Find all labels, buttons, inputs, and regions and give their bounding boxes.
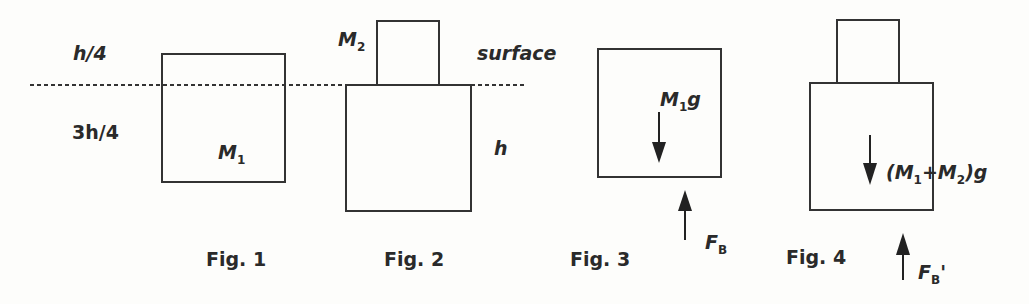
fig2-height-label: h [494, 139, 508, 158]
fig1-mass-label: M1 [218, 143, 245, 162]
fig3-weight-label: M1g [660, 90, 701, 109]
fig2-caption: Fig. 2 [384, 250, 444, 269]
fig3-caption: Fig. 3 [570, 250, 630, 269]
fig1-h4-label: h/4 [73, 44, 107, 63]
fig4-block [810, 83, 933, 210]
fig4-weight-label: (M1+M2)g [886, 163, 987, 182]
fig4-caption: Fig. 4 [786, 248, 846, 267]
fig1-caption: Fig. 1 [206, 250, 266, 269]
fig1-3h4-label: 3h/4 [72, 123, 119, 142]
fig4-top-block [837, 20, 899, 83]
fig4-buoyant-label: FB' [918, 263, 946, 282]
fig2-block [346, 85, 471, 211]
fig2-surface-label: surface [477, 44, 556, 63]
fig3-buoyant-label: FB [705, 233, 727, 252]
fig2-mass-label: M2 [338, 30, 365, 49]
fig2-top-block [377, 21, 439, 85]
